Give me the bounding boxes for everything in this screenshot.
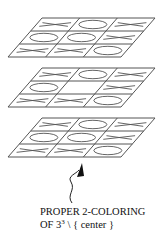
caption-line-2: OF 33 \ { center } bbox=[40, 218, 145, 231]
layer-middle bbox=[8, 68, 155, 107]
o-mark bbox=[94, 146, 122, 154]
o-mark bbox=[94, 46, 122, 54]
layer-bottom bbox=[8, 118, 155, 157]
o-mark bbox=[30, 33, 58, 41]
o-mark bbox=[94, 96, 122, 104]
layer-top bbox=[8, 18, 155, 57]
tic-tac-toe-layers bbox=[8, 18, 155, 157]
o-mark bbox=[79, 20, 107, 28]
o-mark bbox=[68, 133, 96, 141]
o-mark bbox=[79, 70, 107, 78]
caption: PROPER 2-COLORING OF 33 \ { center } bbox=[40, 205, 145, 231]
o-mark bbox=[68, 33, 96, 41]
layers-diagram bbox=[0, 0, 167, 235]
o-mark bbox=[30, 83, 58, 91]
o-mark bbox=[79, 120, 107, 128]
caption-line-1: PROPER 2-COLORING bbox=[40, 205, 145, 218]
o-mark bbox=[30, 133, 58, 141]
arrow-icon bbox=[70, 163, 84, 203]
